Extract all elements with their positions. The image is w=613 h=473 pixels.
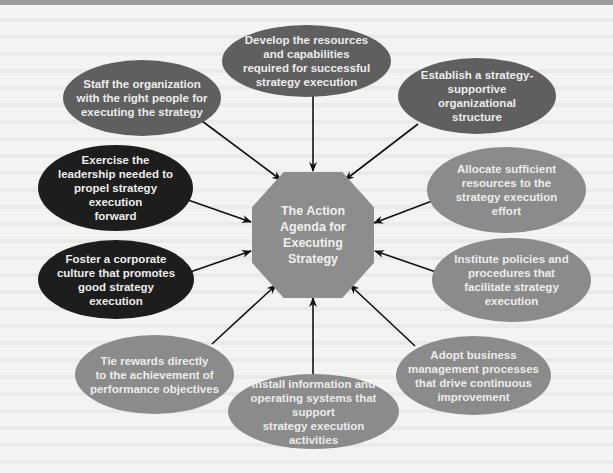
node-text-line: execution [454, 294, 568, 308]
node-text-line: executing the strategy [77, 105, 208, 119]
node-text-line: strategy execution [456, 190, 558, 204]
node-text-line: procedures that [454, 266, 568, 280]
node-text-line: Adopt business [408, 348, 539, 362]
node-text-line: leadership needed to [48, 167, 183, 181]
node-text-line: operating systems that support [238, 391, 389, 419]
arrow-foster [190, 251, 251, 272]
node-text-line: Establish a strategy- [408, 68, 546, 82]
node-text-line: forward [48, 209, 183, 223]
arrow-exercise [188, 200, 251, 222]
node-foster-culture: Foster a corporate culture that promotes… [38, 240, 194, 319]
node-text-line: and capabilities [243, 47, 370, 61]
node-tie-rewards: Tie rewards directly to the achievement … [75, 335, 234, 414]
node-install-systems: Install information and operating system… [228, 374, 399, 449]
center-text-line: Strategy [280, 251, 346, 267]
node-text-line: strategy execution [243, 75, 370, 89]
arrow-allocate [374, 201, 432, 223]
node-text-line: Institute policies and [454, 252, 568, 266]
node-text-line: culture that promotes [57, 266, 175, 280]
node-text-line: execution [57, 294, 175, 308]
arrow-institute [375, 251, 436, 272]
node-text-line: that drive continuous [408, 376, 539, 390]
node-adopt-processes: Adopt business management processes that… [396, 336, 551, 415]
node-text-line: Install information and [238, 377, 389, 391]
node-text-line: Develop the resources [243, 33, 370, 47]
arrow-establish [345, 124, 418, 180]
center-text-line: The Action [280, 203, 346, 219]
node-text-line: performance objectives [90, 382, 219, 396]
node-text-line: Tie rewards directly [90, 354, 219, 368]
node-text-line: good strategy [57, 280, 175, 294]
node-staff-organization: Staff the organization with the right pe… [63, 60, 221, 136]
center-octagon-action-agenda: The Action Agenda for Executing Strategy [252, 172, 374, 298]
center-text-line: Agenda for [280, 219, 346, 235]
node-allocate-resources: Allocate sufficient resources to the str… [427, 147, 586, 233]
arrow-staff [202, 121, 281, 180]
node-text-line: Exercise the [48, 153, 183, 167]
node-text-line: facilitate strategy [454, 280, 568, 294]
arrow-tie-rewards [212, 285, 276, 344]
node-text-line: improvement [408, 390, 539, 404]
node-text-line: with the right people for [77, 91, 208, 105]
node-text-line: supportive organizational [408, 82, 546, 110]
node-text-line: Staff the organization [77, 77, 208, 91]
node-establish-structure: Establish a strategy- supportive organiz… [398, 58, 556, 134]
node-develop-resources: Develop the resources and capabilities r… [222, 25, 391, 97]
node-text-line: Foster a corporate [57, 252, 175, 266]
center-text-line: Executing [280, 235, 346, 251]
node-text-line: management processes [408, 362, 539, 376]
node-text-line: strategy execution activities [238, 419, 389, 447]
node-text-line: resources to the [456, 176, 558, 190]
node-text-line: Allocate sufficient [456, 162, 558, 176]
node-text-line: effort [456, 204, 558, 218]
arrow-adopt [350, 285, 415, 346]
node-text-line: to the achievement of [90, 368, 219, 382]
node-exercise-leadership: Exercise the leadership needed to propel… [38, 145, 193, 231]
node-text-line: propel strategy execution [48, 181, 183, 209]
node-text-line: structure [408, 110, 546, 124]
node-text-line: required for successful [243, 61, 370, 75]
node-institute-policies: Institute policies and procedures that f… [432, 238, 591, 322]
